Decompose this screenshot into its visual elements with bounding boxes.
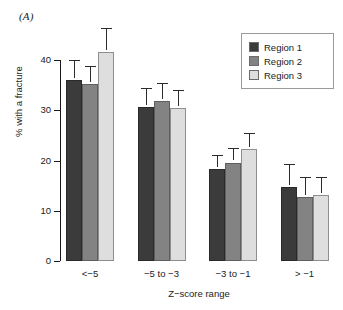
error-bar-cap [141,88,152,89]
error-bar-line [217,155,218,167]
error-bar-cap [212,155,223,156]
error-bar-cap [300,177,311,178]
bar-region-1-group-2 [138,107,154,261]
legend-swatch-icon [249,70,259,80]
legend-label: Region 2 [264,56,302,67]
bar-region-2-group-3 [225,163,241,261]
error-bar-cap [85,66,96,67]
legend-swatch-icon [249,56,259,66]
bar-region-1-group-3 [209,169,225,261]
bar-region-3-group-3 [241,149,257,261]
error-bar-line [90,66,91,82]
error-bar-cap [157,83,168,84]
bar-region-3-group-1 [98,52,114,261]
legend-item-1: Region 1 [249,40,327,54]
legend-label: Region 1 [264,42,302,53]
error-bar-line [74,60,75,78]
error-bar-line [249,133,250,148]
error-bar-line [233,148,234,160]
bar-region-2-group-2 [154,101,170,261]
legend-label: Region 3 [264,70,302,81]
error-bar-cap [173,90,184,91]
bar-region-1-group-1 [66,80,82,261]
legend-swatch-icon [249,42,259,52]
figure-panel-a: (A) 010203040 % with a fracture <−5−5 to… [0,0,343,310]
y-axis-title: % with a fracture [13,27,24,177]
error-bar-line [178,90,179,106]
error-bar-cap [244,133,255,134]
panel-label: (A) [19,10,34,22]
error-bar-line [321,177,322,193]
legend-item-3: Region 3 [249,68,327,82]
y-axis-tick-label: 0 [11,255,51,266]
legend: Region 1Region 2Region 3 [241,33,334,89]
bar-region-1-group-4 [281,187,297,261]
bar-region-3-group-4 [313,195,329,261]
legend-item-2: Region 2 [249,54,327,68]
error-bar-line [289,164,290,186]
error-bar-cap [228,148,239,149]
error-bar-cap [284,164,295,165]
error-bar-cap [101,28,112,29]
x-axis-title: Z−score range [60,288,338,299]
x-axis-label-group-4: > −1 [260,268,343,279]
y-axis-tick-label: 10 [11,205,51,216]
y-axis-tick [54,261,60,262]
error-bar-line [305,177,306,195]
error-bar-cap [69,60,80,61]
error-bar-cap [316,177,327,178]
bar-region-3-group-2 [170,108,186,261]
bar-region-2-group-4 [297,197,313,261]
error-bar-line [146,88,147,106]
error-bar-line [106,28,107,51]
error-bar-line [162,83,163,99]
bar-region-2-group-1 [82,84,98,261]
